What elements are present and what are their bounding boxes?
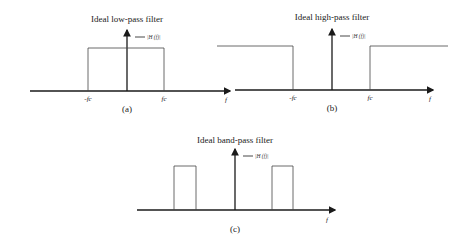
- panel-title: Ideal high-pass filter: [295, 12, 369, 22]
- tick-fc: fc: [161, 95, 167, 103]
- panel-highpass: Ideal high-pass filter |H (f)| -fc fc f …: [217, 12, 448, 113]
- right-passband-rect: [272, 166, 293, 210]
- filter-diagram: Ideal low-pass filter |H (f)| -fc fc f (…: [0, 0, 469, 239]
- right-passband: [370, 46, 448, 90]
- passband-rect: [88, 48, 164, 91]
- caption: (c): [230, 224, 240, 234]
- x-label: f: [429, 95, 432, 103]
- caption: (a): [122, 104, 132, 114]
- panel-title: Ideal low-pass filter: [91, 14, 163, 24]
- left-passband: [217, 46, 293, 90]
- caption: (b): [327, 103, 338, 113]
- tick-neg-fc: -fc: [289, 94, 297, 102]
- tick-fc: fc: [367, 94, 373, 102]
- legend-label: |H (f)|: [352, 33, 366, 40]
- x-label: f: [326, 216, 329, 224]
- left-passband-rect: [174, 166, 196, 210]
- panel-bandpass: Ideal band-pass filter |H (f)| f (c): [137, 135, 335, 234]
- panel-title: Ideal band-pass filter: [197, 135, 273, 145]
- tick-neg-fc: -fc: [84, 95, 92, 103]
- legend-label: |H (f)|: [147, 34, 161, 41]
- x-label: f: [225, 96, 228, 104]
- panel-lowpass: Ideal low-pass filter |H (f)| -fc fc f (…: [30, 14, 230, 114]
- legend-label: |H (f)|: [255, 153, 269, 160]
